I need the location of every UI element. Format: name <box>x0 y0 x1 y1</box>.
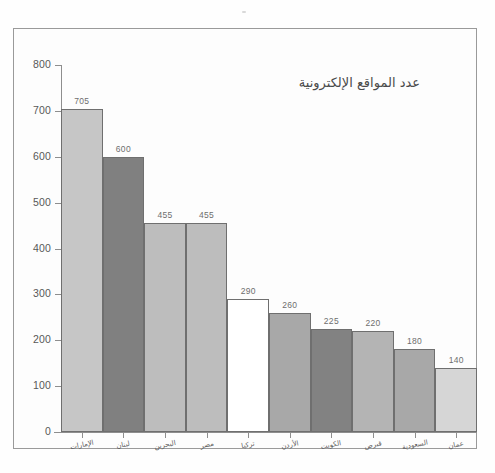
y-axis-tick-label: 700 <box>33 104 51 116</box>
bar-value-label: 140 <box>449 355 464 365</box>
bar-value-label: 220 <box>365 318 380 328</box>
y-axis-tick: 600 <box>14 157 61 158</box>
y-axis-tick: 400 <box>14 249 61 250</box>
bar <box>394 349 436 432</box>
x-axis-tick-mark <box>290 432 291 438</box>
x-axis-category-label: قبرص <box>364 439 383 450</box>
y-axis-tick-mark <box>55 432 61 433</box>
x-axis-tick-mark <box>82 432 83 438</box>
y-axis-tick: 100 <box>14 386 61 387</box>
bar <box>352 331 394 432</box>
x-axis-category-label: مصر <box>199 440 214 450</box>
y-axis-tick-label: 0 <box>45 425 51 437</box>
plot-area: 705600455455290260225220180140 <box>61 65 477 432</box>
x-axis-tick-mark <box>123 432 124 438</box>
y-axis-tick: 800 <box>14 65 61 66</box>
y-axis-tick: 700 <box>14 111 61 112</box>
y-axis-tick-label: 100 <box>33 379 51 391</box>
x-axis-tick-mark <box>331 432 332 438</box>
x-axis-category-label: السعودية <box>401 439 428 452</box>
y-axis-tick-label: 300 <box>33 287 51 299</box>
bar-value-label: 600 <box>116 144 131 154</box>
x-axis-category-label: الكويت <box>321 439 343 451</box>
x-axis-tick-mark <box>456 432 457 438</box>
y-axis-tick-label: 500 <box>33 196 51 208</box>
bar-value-label: 290 <box>241 286 256 296</box>
y-axis-tick-label: 600 <box>33 150 51 162</box>
bar-value-label: 225 <box>324 316 339 326</box>
x-axis-category-label: لبنان <box>116 440 131 450</box>
bar <box>186 223 228 432</box>
y-axis-tick: 200 <box>14 340 61 341</box>
x-axis-tick-mark <box>165 432 166 438</box>
y-axis-tick: 500 <box>14 203 61 204</box>
chart-figure: عدد المواقع الإلكترونية 0100200300400500… <box>0 0 495 473</box>
x-axis-tick-mark <box>248 432 249 438</box>
bar-value-label: 705 <box>74 96 89 106</box>
y-axis-tick: 0 <box>14 432 61 433</box>
x-axis-category-label: البحرين <box>154 439 177 451</box>
bar <box>61 109 103 432</box>
y-axis-tick-label: 800 <box>33 58 51 70</box>
bar <box>227 299 269 432</box>
x-axis-category-label: تركيا <box>241 440 256 450</box>
bar <box>435 368 477 432</box>
x-axis-tick-mark <box>373 432 374 438</box>
y-axis-tick: 300 <box>14 294 61 295</box>
bar <box>103 157 145 432</box>
bar <box>144 223 186 432</box>
x-axis-tick-mark <box>415 432 416 438</box>
bar <box>311 329 353 432</box>
x-axis-tick-mark <box>207 432 208 438</box>
chart-frame: عدد المواقع الإلكترونية 0100200300400500… <box>13 28 477 449</box>
bar-value-label: 180 <box>407 336 422 346</box>
bar-value-label: 455 <box>199 210 214 220</box>
y-axis-tick-label: 400 <box>33 242 51 254</box>
x-axis-category-label: الإمارات <box>69 439 94 451</box>
x-axis-category-label: الأردن <box>280 439 299 450</box>
bar <box>269 313 311 432</box>
x-axis-category-label: عمان <box>448 440 465 451</box>
x-axis-line <box>54 432 477 433</box>
scan-artifact <box>242 11 246 13</box>
bar-value-label: 260 <box>282 300 297 310</box>
bar-value-label: 455 <box>157 210 172 220</box>
y-axis-tick-label: 200 <box>33 333 51 345</box>
